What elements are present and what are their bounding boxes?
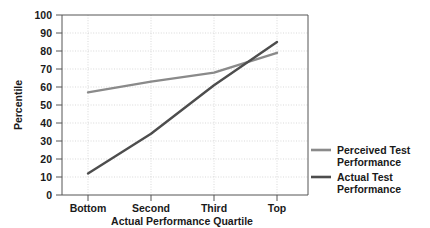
y-tick-label-80: 80 bbox=[40, 45, 52, 57]
y-tick-label-0: 0 bbox=[46, 189, 52, 201]
legend: Perceived Test Performance Actual Test P… bbox=[311, 144, 411, 196]
legend-label-actual-line2: Performance bbox=[337, 183, 401, 195]
x-tick-label-third: Third bbox=[201, 202, 227, 214]
y-tick-label-30: 30 bbox=[40, 135, 52, 147]
x-tick-label-top: Top bbox=[268, 202, 286, 214]
legend-label-perceived-line1: Perceived Test bbox=[337, 144, 411, 156]
x-axis-ticks bbox=[88, 195, 277, 201]
y-tick-label-40: 40 bbox=[40, 117, 52, 129]
x-tick-label-second: Second bbox=[132, 202, 170, 214]
y-tick-label-60: 60 bbox=[40, 81, 52, 93]
x-axis-title: Actual Performance Quartile bbox=[111, 215, 253, 227]
line-chart: 100 90 80 70 60 50 40 30 20 10 0 Percent… bbox=[0, 0, 430, 228]
y-axis-ticks bbox=[56, 15, 62, 195]
chart-figure: 100 90 80 70 60 50 40 30 20 10 0 Percent… bbox=[0, 0, 430, 228]
y-tick-label-10: 10 bbox=[40, 171, 52, 183]
legend-label-actual-line1: Actual Test bbox=[337, 171, 393, 183]
x-tick-label-bottom: Bottom bbox=[70, 202, 107, 214]
y-tick-label-20: 20 bbox=[40, 153, 52, 165]
y-axis-title: Percentile bbox=[12, 80, 24, 130]
y-tick-label-90: 90 bbox=[40, 27, 52, 39]
y-tick-label-50: 50 bbox=[40, 99, 52, 111]
legend-label-perceived-line2: Performance bbox=[337, 156, 401, 168]
y-tick-label-70: 70 bbox=[40, 63, 52, 75]
y-tick-label-100: 100 bbox=[34, 9, 52, 21]
